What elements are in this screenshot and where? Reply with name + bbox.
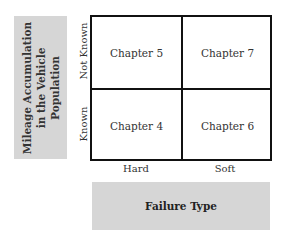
x-axis-title: Failure Type xyxy=(145,200,217,212)
y-axis-title-box: Mileage Accumulation in the Vehicle Popu… xyxy=(14,16,67,159)
cell-not-known-soft: Chapter 7 xyxy=(183,17,272,88)
x-axis-title-box: Failure Type xyxy=(92,182,270,230)
row-label-not-known: Not Known xyxy=(78,23,89,80)
column-label-soft: Soft xyxy=(215,163,236,174)
row-label-known: Known xyxy=(78,107,89,142)
cell-known-soft: Chapter 6 xyxy=(183,90,272,161)
cell-not-known-hard: Chapter 5 xyxy=(92,17,181,88)
y-axis-title: Mileage Accumulation in the Vehicle Popu… xyxy=(20,16,62,159)
cell-known-hard: Chapter 4 xyxy=(92,90,181,161)
column-label-hard: Hard xyxy=(123,163,149,174)
matrix-grid: Chapter 5 Chapter 7 Chapter 4 Chapter 6 xyxy=(90,15,272,161)
